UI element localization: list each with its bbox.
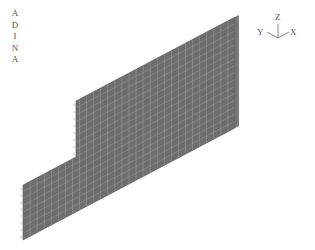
mesh-viewport[interactable] [0, 0, 315, 250]
wall-mesh-model [20, 15, 239, 240]
